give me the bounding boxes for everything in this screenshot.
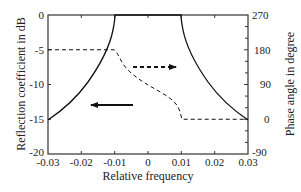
x-tick-labels: -0.03 -0.02 -0.01 0 0.01 0.02 0.03: [37, 156, 259, 168]
phase-curve: [48, 50, 248, 120]
y2-tick-label: 180: [254, 44, 271, 56]
x-tick-label: -0.03: [37, 156, 60, 168]
y-tick-label: -5: [35, 44, 45, 56]
x-tick-label: 0.01: [172, 156, 191, 168]
x-tick-label: -0.02: [70, 156, 93, 168]
x-tick-label: -0.01: [103, 156, 126, 168]
y-axis-title: Reflection coefficient in dB: [14, 17, 28, 150]
y-tick-label: -15: [29, 113, 44, 125]
chart: 0 -5 -10 -15 -20 270 180 90 0 -90 -0.03 …: [0, 0, 301, 192]
y-tick-label: 0: [39, 9, 45, 21]
x-axis-title: Relative frequency: [103, 169, 194, 183]
y2-tick-labels: 270 180 90 0 -90: [252, 9, 272, 158]
y2-axis-ticks: [244, 27, 248, 143]
y2-axis-title: Phase angle in degree: [283, 32, 297, 136]
y2-tick-label: 0: [264, 113, 270, 125]
x-tick-label: 0.02: [205, 156, 224, 168]
y-tick-labels: 0 -5 -10 -15 -20: [29, 9, 44, 158]
y-tick-label: -10: [29, 78, 44, 90]
y2-tick-label: 270: [252, 9, 269, 21]
x-tick-label: 0: [145, 156, 151, 168]
x-tick-label: 0.03: [238, 156, 258, 168]
y2-tick-label: 90: [260, 78, 272, 90]
